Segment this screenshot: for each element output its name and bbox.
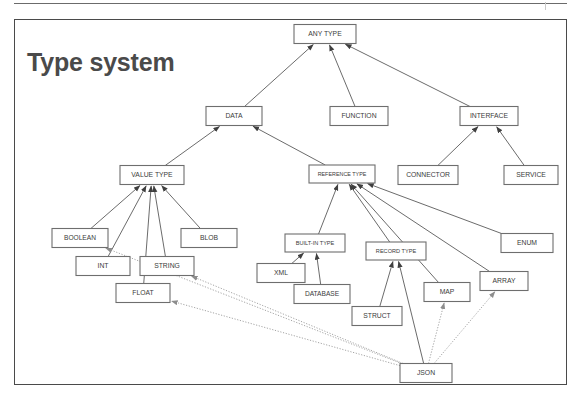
node-json[interactable]: JSON: [400, 364, 452, 383]
node-label-string: STRING: [154, 262, 180, 269]
edge-boolean-to-value_type: [91, 185, 140, 228]
edge-built_in_type-to-reference_type: [319, 184, 338, 234]
node-boolean[interactable]: BOOLEAN: [52, 229, 108, 248]
node-label-service: SERVICE: [516, 171, 546, 178]
node-label-reference_type: REFERENCE TYPE: [318, 171, 367, 177]
node-float[interactable]: FLOAT: [116, 284, 170, 303]
node-blob[interactable]: BLOB: [181, 229, 237, 248]
type-system-diagram: ANY TYPEDATAFUNCTIONINTERFACEVALUE TYPER…: [0, 0, 580, 404]
slide-page: Type system ANY TYPEDATAFUNCTIONINTERFAC…: [0, 0, 580, 404]
node-label-map: MAP: [440, 288, 455, 295]
node-interface[interactable]: INTERFACE: [460, 107, 518, 126]
node-value_type[interactable]: VALUE TYPE: [120, 166, 184, 185]
node-array[interactable]: ARRAY: [480, 272, 528, 291]
node-map[interactable]: MAP: [424, 283, 470, 302]
node-function[interactable]: FUNCTION: [330, 107, 388, 126]
edge-function-to-any_type: [330, 45, 356, 107]
node-connector[interactable]: CONNECTOR: [398, 166, 458, 185]
edge-connector-to-interface: [438, 127, 478, 166]
node-label-boolean: BOOLEAN: [64, 234, 96, 241]
edge-struct-to-record_type: [380, 261, 393, 306]
edge-json-to-array: [434, 292, 495, 364]
node-label-xml: XML: [274, 269, 288, 276]
node-label-data: DATA: [225, 112, 243, 119]
edge-record_type-to-reference_type: [349, 184, 390, 242]
node-xml[interactable]: XML: [257, 264, 305, 283]
node-label-array: ARRAY: [493, 277, 516, 284]
node-layer: ANY TYPEDATAFUNCTIONINTERFACEVALUE TYPER…: [52, 25, 558, 383]
edge-xml-to-built_in_type: [292, 253, 304, 264]
node-label-enum: ENUM: [517, 239, 537, 246]
node-any_type[interactable]: ANY TYPE: [294, 25, 356, 44]
node-label-value_type: VALUE TYPE: [131, 171, 173, 178]
node-record_type[interactable]: RECORD TYPE: [366, 242, 426, 260]
edge-map-to-reference_type: [351, 184, 439, 282]
node-label-json: JSON: [417, 369, 435, 376]
node-label-function: FUNCTION: [341, 112, 376, 119]
node-int[interactable]: INT: [76, 257, 130, 276]
node-enum[interactable]: ENUM: [501, 234, 553, 253]
edge-database-to-built_in_type: [316, 253, 320, 284]
node-label-blob: BLOB: [200, 234, 219, 241]
node-string[interactable]: STRING: [140, 257, 194, 276]
node-label-record_type: RECORD TYPE: [376, 248, 417, 254]
node-label-connector: CONNECTOR: [406, 171, 450, 178]
node-label-built_in_type: BUILT-IN TYPE: [296, 240, 335, 246]
node-label-int: INT: [98, 262, 109, 269]
edge-data-to-any_type: [245, 45, 314, 107]
edge-value_type-to-data: [165, 126, 219, 165]
edge-blob-to-value_type: [162, 186, 201, 229]
edge-interface-to-any_type: [345, 44, 470, 106]
node-label-interface: INTERFACE: [470, 112, 509, 119]
edge-layer: [91, 44, 524, 365]
node-data[interactable]: DATA: [206, 107, 262, 126]
node-label-any_type: ANY TYPE: [308, 30, 342, 37]
node-service[interactable]: SERVICE: [504, 166, 558, 185]
node-built_in_type[interactable]: BUILT-IN TYPE: [285, 234, 345, 252]
node-struct[interactable]: STRUCT: [352, 307, 402, 326]
node-reference_type[interactable]: REFERENCE TYPE: [309, 165, 375, 183]
edge-enum-to-reference_type: [368, 184, 502, 234]
edge-reference_type-to-data: [253, 126, 325, 165]
node-label-database: DATABASE: [305, 290, 340, 297]
edge-service-to-interface: [497, 127, 525, 166]
node-database[interactable]: DATABASE: [294, 285, 350, 304]
node-label-float: FLOAT: [132, 289, 153, 296]
edge-string-to-value_type: [154, 186, 166, 257]
node-label-struct: STRUCT: [363, 312, 391, 319]
